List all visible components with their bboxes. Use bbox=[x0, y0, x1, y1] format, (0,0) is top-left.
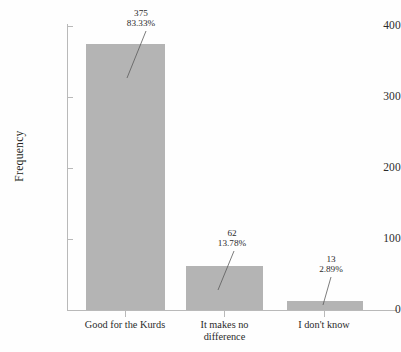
x-category-label-2-line2: difference bbox=[204, 331, 246, 342]
x-category-label-1-line1: Good for the Kurds bbox=[85, 319, 165, 330]
leader-line-1 bbox=[127, 31, 146, 78]
bar-chart: Frequency 400 300 200 100 0 375 83.33% 6… bbox=[0, 0, 401, 352]
x-category-label-3-line1: I don't know bbox=[298, 319, 350, 330]
leader-lines bbox=[0, 0, 401, 352]
leader-line-2 bbox=[218, 251, 234, 290]
x-category-label-2-line1: It makes no bbox=[200, 319, 248, 330]
x-category-label-1: Good for the Kurds bbox=[65, 319, 185, 331]
x-category-label-3: I don't know bbox=[277, 319, 371, 331]
x-category-label-2: It makes no difference bbox=[178, 319, 271, 344]
leader-line-3 bbox=[323, 277, 331, 305]
